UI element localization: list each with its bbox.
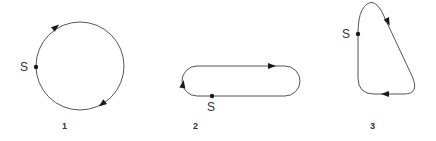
circle-path: [36, 22, 124, 110]
direction-arrow-icon: [268, 63, 276, 69]
start-point: [210, 94, 214, 98]
teardrop-path: [358, 2, 415, 94]
figure-2: S 2: [179, 63, 300, 131]
direction-arrow-icon: [97, 99, 107, 109]
figure-1: S 1: [20, 22, 124, 131]
start-label: S: [207, 100, 215, 114]
figure-number: 3: [370, 121, 375, 131]
start-label: S: [20, 60, 28, 74]
figure-number: 2: [193, 121, 198, 131]
diagram-canvas: S 1 S 2 S 3: [0, 0, 436, 141]
start-label: S: [342, 27, 350, 41]
start-point: [34, 65, 38, 69]
start-point: [356, 32, 360, 36]
stadium-path: [182, 66, 300, 96]
direction-arrow-icon: [381, 91, 389, 97]
figure-3: S 3: [342, 2, 415, 131]
figure-number: 1: [62, 121, 67, 131]
direction-arrow-icon: [179, 80, 186, 89]
